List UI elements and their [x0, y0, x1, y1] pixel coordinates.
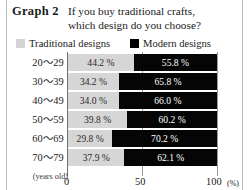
table-row: 20～29 44.2 % 55.8 %	[68, 54, 217, 71]
legend-label-traditional: Traditional designs	[29, 38, 110, 49]
bar-segment-traditional: 34.0 %	[68, 92, 119, 109]
table-row: 40～49 34.0 % 66.0 %	[68, 92, 217, 109]
chart-area: 20～29 44.2 % 55.8 % 30～39 34.2 % 65.8 % …	[0, 52, 247, 190]
bar-segment-modern: 62.1 %	[124, 149, 217, 166]
y-axis-unit-label: (years old)	[14, 172, 68, 181]
row-category-label: 40～49	[32, 92, 64, 109]
x-axis-unit-label: (%)	[227, 179, 239, 188]
x-axis: 0 50 100 (%)	[68, 174, 217, 190]
table-row: 70～79 37.9 % 62.1 %	[68, 149, 217, 166]
bar-segment-modern: 66.0 %	[119, 92, 217, 109]
figure-title-line-2: which design do you choose?	[68, 18, 201, 32]
gridline-100	[217, 52, 218, 176]
x-tick-0: 0	[64, 176, 69, 187]
bar-segment-modern: 55.8 %	[134, 54, 217, 71]
row-category-label: 70～79	[32, 149, 64, 166]
bar-segment-traditional: 44.2 %	[68, 54, 134, 71]
bar-segment-traditional: 37.9 %	[68, 149, 124, 166]
graph-figure: Graph 2 If you buy traditional crafts, w…	[0, 0, 247, 190]
figure-title-line-1: If you buy traditional crafts,	[68, 4, 201, 18]
bar-segment-modern: 60.2 %	[127, 111, 217, 128]
table-row: 50～59 39.8 % 60.2 %	[68, 111, 217, 128]
table-row: 60～69 29.8 % 70.2 %	[68, 130, 217, 147]
legend-item-traditional: Traditional designs	[16, 38, 110, 49]
row-category-label: 20～29	[32, 54, 64, 71]
plot-area: 20～29 44.2 % 55.8 % 30～39 34.2 % 65.8 % …	[68, 54, 217, 171]
legend-label-modern: Modern designs	[143, 38, 211, 49]
table-row: 30～39 34.2 % 65.8 %	[68, 73, 217, 90]
legend-swatch-modern-icon	[130, 39, 139, 48]
row-category-label: 60～69	[32, 130, 64, 147]
graph-number-label: Graph 2	[12, 4, 59, 18]
legend-swatch-traditional-icon	[16, 39, 25, 48]
bar-segment-modern: 70.2 %	[112, 130, 217, 147]
figure-header: Graph 2 If you buy traditional crafts, w…	[12, 4, 240, 32]
bar-segment-traditional: 34.2 %	[68, 73, 119, 90]
figure-title: If you buy traditional crafts, which des…	[68, 4, 201, 32]
row-category-label: 30～39	[32, 73, 64, 90]
bar-segment-modern: 65.8 %	[119, 73, 217, 90]
bar-segment-traditional: 39.8 %	[68, 111, 127, 128]
x-tick-100: 100	[206, 176, 222, 187]
row-category-label: 50～59	[32, 111, 64, 128]
bar-segment-traditional: 29.8 %	[68, 130, 112, 147]
x-tick-50: 50	[135, 176, 145, 187]
legend-item-modern: Modern designs	[130, 38, 211, 49]
